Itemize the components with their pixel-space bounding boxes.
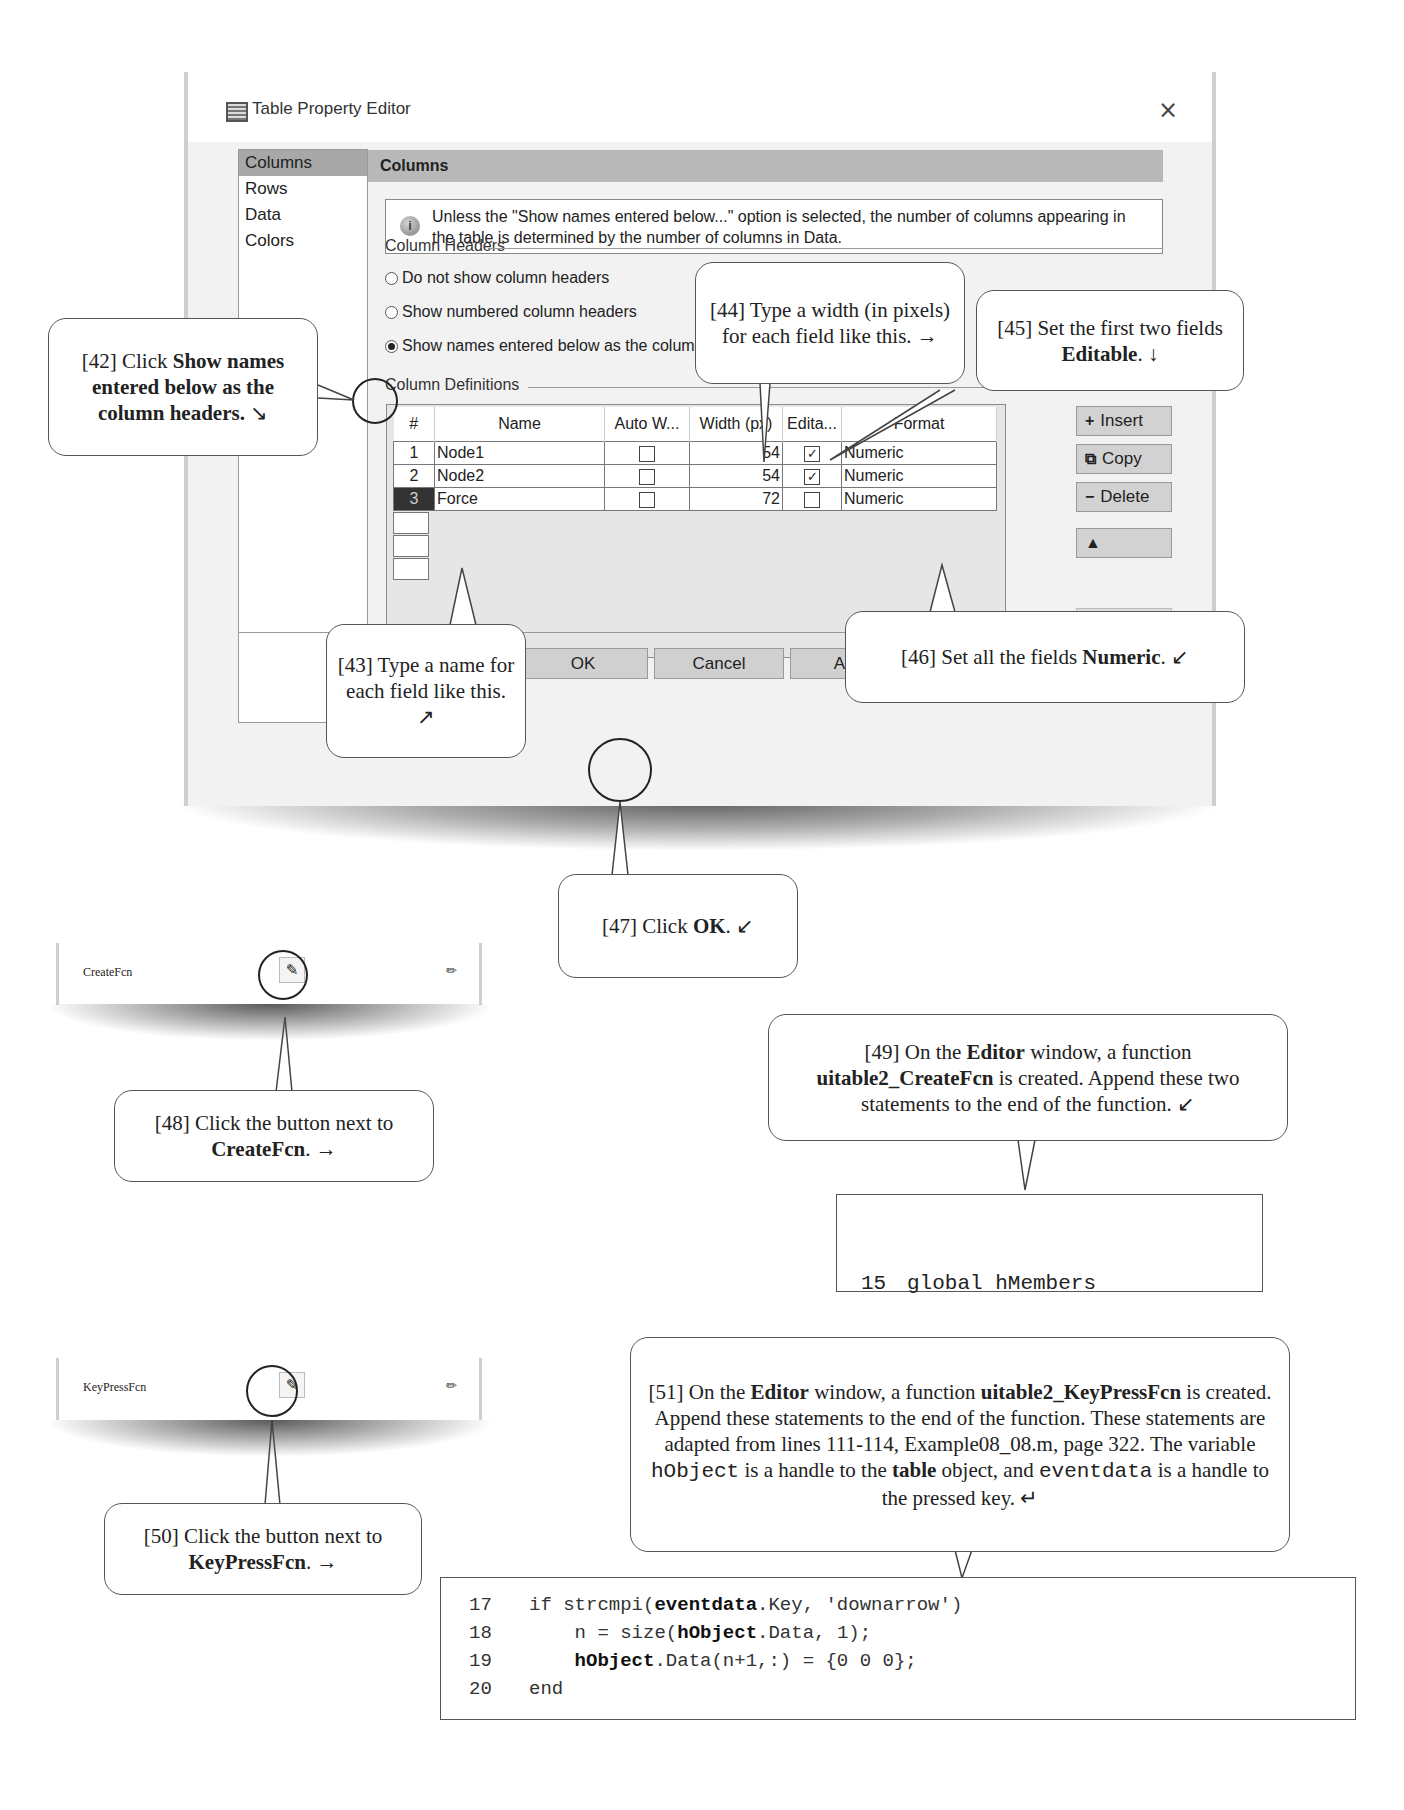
table-row[interactable]: 1 Node1 54 ✓ Numeric	[394, 442, 997, 465]
callout-bold-text: table	[892, 1458, 936, 1482]
move-up-button[interactable]: ▲	[1076, 528, 1172, 558]
code-text: global hMembers	[907, 1272, 1096, 1295]
strip-shadow	[50, 1420, 490, 1456]
editable-cell[interactable]	[783, 488, 842, 511]
callout-47: [47] Click OK. ↙	[558, 874, 798, 978]
code-line: 15global hMembers	[861, 1269, 1262, 1299]
callback-editor-button[interactable]: ✎	[279, 1372, 305, 1398]
info-icon: i	[400, 216, 420, 236]
radio-button[interactable]	[385, 272, 398, 285]
code-block-keypressfcn: 17if strcmpi(eventdata.Key, 'downarrow')…	[440, 1577, 1356, 1720]
callout-text: [46] Set all the fields	[901, 645, 1082, 669]
callback-editor-button[interactable]: ✎	[279, 957, 305, 983]
title-bar: Table Property Editor ×	[188, 72, 1212, 142]
editable-checkbox-checked[interactable]: ✓	[804, 446, 820, 462]
callout-45: [45] Set the first two fields Editable. …	[976, 290, 1244, 391]
callback-editor-icon: ✎	[286, 1376, 299, 1394]
auto-width-checkbox[interactable]	[639, 446, 655, 462]
callout-bold-text: CreateFcn	[211, 1137, 305, 1161]
cancel-button[interactable]: Cancel	[654, 648, 784, 679]
nav-item-rows[interactable]: Rows	[239, 176, 367, 202]
radio-button[interactable]	[385, 306, 398, 319]
callout-text: [50] Click the button next to	[144, 1524, 383, 1548]
callout-text: . ↓	[1137, 342, 1158, 366]
row-number[interactable]: 1	[394, 442, 435, 465]
auto-width-cell[interactable]	[605, 488, 690, 511]
callout-text: [51] On the	[649, 1380, 751, 1404]
radio-button-checked[interactable]	[385, 340, 398, 353]
callout-bold-text: Editable	[1062, 342, 1138, 366]
line-number: 19	[469, 1647, 529, 1675]
info-text: Unless the "Show names entered below..."…	[432, 206, 1152, 248]
column-headers-group-label: Column Headers	[385, 237, 505, 255]
callout-51: [51] On the Editor window, a function ui…	[630, 1337, 1290, 1552]
callout-text: . →	[306, 1550, 338, 1574]
callout-text: . ↙	[1161, 645, 1190, 669]
callout-text: [42] Click	[82, 349, 173, 373]
insert-button[interactable]: + Insert	[1076, 406, 1172, 436]
callout-bold-text: Editor	[967, 1040, 1025, 1064]
arrow-up-icon: ▲	[1085, 534, 1101, 552]
empty-row-header[interactable]	[393, 558, 429, 580]
auto-width-cell[interactable]	[605, 465, 690, 488]
nav-item-colors[interactable]: Colors	[239, 228, 367, 254]
editable-checkbox-checked[interactable]: ✓	[804, 469, 820, 485]
callout-text: [49] On the	[864, 1040, 966, 1064]
callout-text: [47] Click	[602, 914, 693, 938]
pencil-icon[interactable]: ✏	[446, 1378, 457, 1393]
row-number[interactable]: 2	[394, 465, 435, 488]
auto-width-checkbox[interactable]	[639, 469, 655, 485]
table-row-selected[interactable]: 3 Force 72 Numeric	[394, 488, 997, 511]
callout-text: [45] Set the first two fields	[997, 316, 1223, 340]
format-cell[interactable]: Numeric	[842, 488, 997, 511]
delete-button[interactable]: − Delete	[1076, 482, 1172, 512]
format-cell[interactable]: Numeric	[842, 442, 997, 465]
radio-no-headers[interactable]: Do not show column headers	[385, 269, 609, 287]
row-number[interactable]: 3	[394, 488, 435, 511]
nav-item-columns[interactable]: Columns	[239, 150, 367, 176]
name-cell[interactable]: Node1	[435, 442, 605, 465]
divider	[488, 248, 1163, 249]
nav-item-data[interactable]: Data	[239, 202, 367, 228]
callout-44: [44] Type a width (in pixels) for each f…	[695, 262, 965, 384]
name-cell[interactable]: Force	[435, 488, 605, 511]
ok-button[interactable]: OK	[518, 648, 648, 679]
editable-cell[interactable]: ✓	[783, 465, 842, 488]
callout-text: [48] Click the button next to	[155, 1111, 394, 1135]
button-label: Insert	[1100, 411, 1143, 431]
code-text: if strcmpi(	[529, 1594, 654, 1616]
minus-icon: −	[1085, 488, 1094, 506]
copy-button[interactable]: ⧉ Copy	[1076, 444, 1172, 474]
width-cell[interactable]: 54	[690, 442, 783, 465]
code-text: eventdata	[654, 1594, 757, 1616]
callout-code-text: eventdata	[1039, 1460, 1152, 1483]
callout-49: [49] On the Editor window, a function ui…	[768, 1014, 1288, 1141]
width-cell[interactable]: 72	[690, 488, 783, 511]
width-cell[interactable]: 54	[690, 465, 783, 488]
callout-bold-text: uitable2_CreateFcn	[816, 1066, 993, 1090]
col-header-editable: Edita...	[783, 407, 842, 442]
pencil-icon[interactable]: ✏	[446, 963, 457, 978]
col-header-name: Name	[435, 407, 605, 442]
name-cell[interactable]: Node2	[435, 465, 605, 488]
empty-row-header[interactable]	[393, 535, 429, 557]
editable-cell[interactable]: ✓	[783, 442, 842, 465]
empty-row-header[interactable]	[393, 512, 429, 534]
createfcn-property-row: CreateFcn ✎ ✏	[56, 943, 482, 1005]
close-icon[interactable]: ×	[1158, 100, 1178, 120]
property-label: CreateFcn	[83, 965, 132, 980]
dialog-title: Table Property Editor	[252, 99, 411, 119]
code-text: .Key, 'downarrow')	[757, 1594, 962, 1616]
line-number: 18	[469, 1619, 529, 1647]
button-label: Delete	[1100, 487, 1149, 507]
line-number: 20	[469, 1675, 529, 1703]
table-row[interactable]: 2 Node2 54 ✓ Numeric	[394, 465, 997, 488]
callout-text: . →	[305, 1137, 337, 1161]
auto-width-checkbox[interactable]	[639, 492, 655, 508]
radio-numbered-headers[interactable]: Show numbered column headers	[385, 303, 637, 321]
col-header-format: Format	[842, 407, 997, 442]
code-text: .Data(n+1,:) = {0 0 0};	[654, 1650, 916, 1672]
editable-checkbox[interactable]	[804, 492, 820, 508]
auto-width-cell[interactable]	[605, 442, 690, 465]
format-cell[interactable]: Numeric	[842, 465, 997, 488]
